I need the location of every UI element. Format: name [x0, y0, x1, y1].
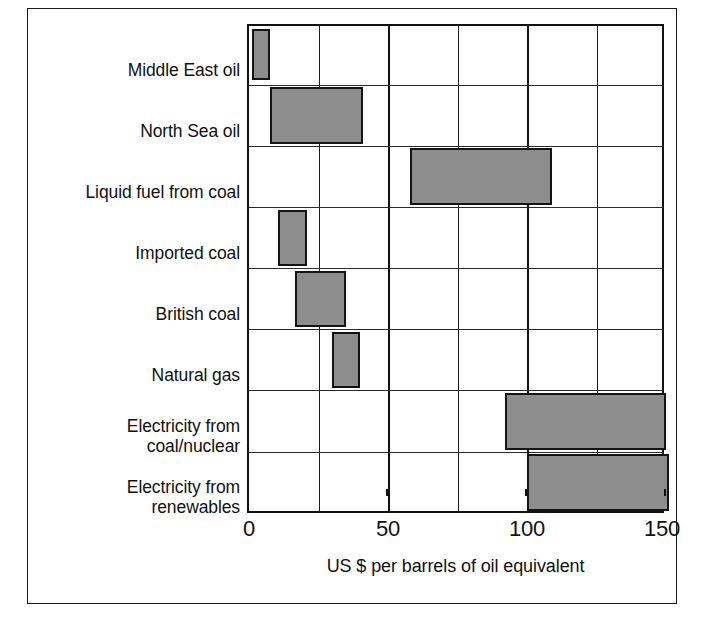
xtick-label-0: 0 — [243, 516, 255, 542]
category-label-liquid-fuel-from-coal: Liquid fuel from coal — [10, 182, 240, 202]
category-label-line-2: coal/nuclear — [147, 436, 240, 456]
gridline-row-2 — [249, 146, 664, 147]
category-label-electricity-from-coal-nuclear: Electricity from coal/nuclear — [10, 416, 240, 456]
bar-british-coal — [295, 271, 346, 327]
category-label-natural-gas: Natural gas — [10, 365, 240, 385]
bar-natural-gas — [332, 332, 360, 388]
category-label-imported-coal: Imported coal — [10, 243, 240, 263]
category-label-middle-east-oil: Middle East oil — [10, 60, 240, 80]
bar-liquid-fuel-from-coal — [410, 148, 552, 205]
chart-figure: Middle East oil North Sea oil Liquid fue… — [0, 0, 704, 618]
tick-mark-150 — [664, 489, 666, 496]
plot-top-border — [249, 24, 664, 26]
xtick-label-50: 50 — [376, 516, 400, 542]
tick-mark-50 — [386, 489, 388, 496]
plot-area — [247, 24, 664, 513]
gridline-row-1 — [249, 85, 664, 86]
bar-imported-coal — [278, 210, 307, 266]
tick-mark-0 — [247, 489, 249, 496]
x-axis-title: US $ per barrels of oil equivalent — [247, 556, 664, 577]
tick-mark-100 — [525, 489, 527, 496]
category-label-north-sea-oil: North Sea oil — [10, 121, 240, 141]
gridline-row-6 — [249, 390, 664, 391]
bar-electricity-from-coal-nuclear — [505, 393, 666, 450]
gridline-row-7 — [249, 452, 664, 453]
bar-north-sea-oil — [270, 87, 363, 144]
category-label-line-1: Electricity from — [127, 477, 240, 497]
gridline-row-3 — [249, 207, 664, 208]
gridline-row-5 — [249, 329, 664, 330]
category-axis-labels: Middle East oil North Sea oil Liquid fue… — [8, 24, 240, 513]
xtick-label-150: 150 — [644, 516, 680, 542]
category-label-line-1: Electricity from — [127, 416, 240, 436]
bar-electricity-from-renewables — [527, 454, 669, 511]
bar-middle-east-oil — [252, 29, 270, 80]
xtick-label-100: 100 — [509, 516, 545, 542]
category-label-british-coal: British coal — [10, 304, 240, 324]
category-label-line-2: renewables — [152, 497, 241, 517]
category-label-electricity-from-renewables: Electricity from renewables — [10, 477, 240, 517]
gridline-row-4 — [249, 268, 664, 269]
